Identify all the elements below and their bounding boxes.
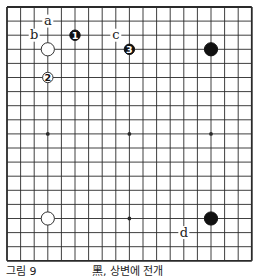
letter-mark-c: c bbox=[112, 27, 119, 42]
star-point bbox=[127, 132, 131, 136]
stone-number: 1 bbox=[72, 30, 79, 41]
black-stone bbox=[204, 212, 217, 225]
black-stone-1: 1 bbox=[70, 30, 80, 41]
stone-icon bbox=[41, 43, 54, 56]
letter-mark-d: d bbox=[180, 225, 188, 240]
black-stone bbox=[204, 43, 217, 56]
letter-mark-a: a bbox=[44, 13, 52, 28]
stone-icon bbox=[204, 43, 217, 56]
stone-number: 2 bbox=[44, 72, 51, 83]
white-stone bbox=[41, 212, 54, 225]
letter-mark-b: b bbox=[30, 27, 38, 42]
black-stone-3: 3 bbox=[124, 44, 134, 55]
stone-number: 3 bbox=[126, 44, 133, 55]
stone-icon bbox=[204, 212, 217, 225]
star-point bbox=[46, 132, 50, 136]
white-stone bbox=[41, 43, 54, 56]
star-point bbox=[127, 217, 131, 221]
white-stone-2: 2 bbox=[43, 72, 53, 83]
figure-title: 黑, 상변에 전개 bbox=[92, 266, 164, 276]
star-point bbox=[209, 132, 213, 136]
figure-number: 그림 9 bbox=[6, 266, 37, 276]
stone-icon bbox=[41, 212, 54, 225]
go-board-diagram: abcd 123 bbox=[0, 0, 255, 276]
